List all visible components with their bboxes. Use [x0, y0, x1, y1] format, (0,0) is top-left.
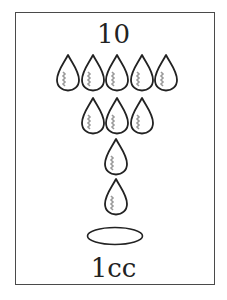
water-drop-icon: [55, 53, 81, 92]
water-drop-icon: [129, 96, 155, 135]
water-drop-icon: [103, 177, 129, 216]
water-drop-icon: [129, 53, 155, 92]
volume-label: 1cc: [0, 253, 227, 283]
ellipse-puddle-icon: [86, 226, 144, 246]
water-drop-icon: [104, 96, 130, 135]
water-drop-icon: [153, 53, 179, 92]
water-drop-icon: [80, 96, 106, 135]
water-drop-icon: [80, 53, 106, 92]
water-drop-icon: [104, 53, 130, 92]
water-drop-icon: [103, 137, 129, 176]
drop-count-label: 10: [0, 19, 227, 49]
